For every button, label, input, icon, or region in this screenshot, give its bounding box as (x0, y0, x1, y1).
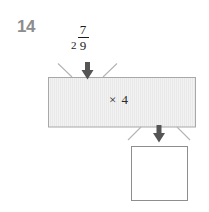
worksheet-problem: 14 2 7 9 (0, 0, 209, 212)
input-arrow-icon (82, 62, 94, 80)
input-funnel-left-line (58, 64, 72, 78)
output-arrow-icon (153, 125, 165, 143)
input-funnel-right-line (103, 64, 117, 78)
output-funnel-left-line (128, 127, 141, 140)
answer-value[interactable] (131, 146, 188, 201)
output-funnel-right-line (177, 127, 190, 140)
machine-operation-label: × 4 (109, 93, 129, 106)
